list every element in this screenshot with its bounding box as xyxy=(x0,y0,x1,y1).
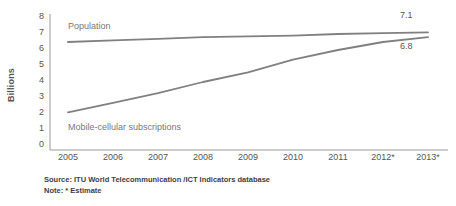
footnotes: Source: ITU World Telecommunication /ICT… xyxy=(44,174,270,196)
line-population xyxy=(68,32,428,42)
value-label-population-end: 7.1 xyxy=(400,10,413,20)
value-label-mobile-end: 6.8 xyxy=(400,41,413,51)
series-annotation-population: Population xyxy=(68,21,111,31)
footnote-note: Note: * Estimate xyxy=(44,185,270,196)
line-mobile-cellular-subscriptions xyxy=(68,37,428,112)
chart-figure: Billions 8 7 6 5 4 3 2 1 0 Population Mo… xyxy=(0,0,456,206)
series-annotation-mobile-cellular-subscriptions: Mobile-cellular subscriptions xyxy=(68,122,181,132)
footnote-source: Source: ITU World Telecommunication /ICT… xyxy=(44,174,270,185)
x-tick-2013: 2013* xyxy=(400,152,456,162)
